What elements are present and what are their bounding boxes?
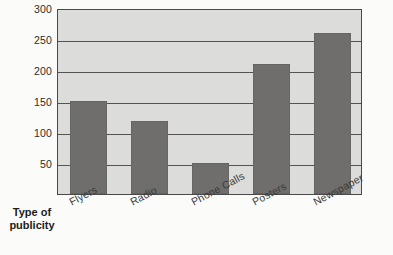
y-axis-tick-label: 150 [8,97,52,108]
bar-flyers [70,101,107,194]
y-axis-tick-label: 200 [8,66,52,77]
bar-radio [131,121,168,194]
x-axis-title-line-1: Type of [6,206,58,219]
bar-posters [253,64,290,194]
plot-area [57,9,362,195]
bar-chart: 50100150200250300 FlyersRadioPhone Calls… [0,0,393,255]
y-axis-tick-label: 300 [8,4,52,15]
y-axis-tick-label: 50 [8,159,52,170]
bar-newspaper [314,33,351,194]
bars-layer [58,10,361,194]
y-axis-tick-label: 100 [8,128,52,139]
x-axis-title-line-2: publicity [6,219,58,232]
y-axis-labels: 50100150200250300 [4,9,52,195]
x-axis-category-labels: FlyersRadioPhone CallsPostersNewspaper [57,195,362,255]
x-axis-title: Type of publicity [6,206,58,232]
y-axis-tick-label: 250 [8,35,52,46]
